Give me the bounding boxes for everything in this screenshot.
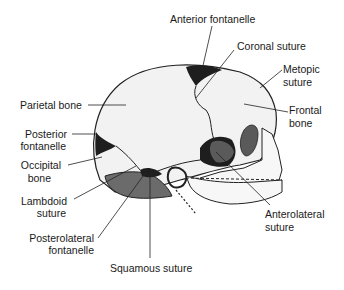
label-occipital-bone-1: Occipital <box>21 159 61 171</box>
label-coronal-suture: Coronal suture <box>237 40 306 52</box>
label-parietal-bone: Parietal bone <box>20 99 82 111</box>
label-anterolateral-suture-2: suture <box>265 221 294 233</box>
label-posterior-fontanelle-2: fontanelle <box>20 140 66 152</box>
label-squamous-suture: Squamous suture <box>110 262 192 274</box>
label-occipital-bone-2: bone <box>28 172 51 184</box>
label-frontal-bone-2: bone <box>289 117 312 129</box>
label-lambdoid-suture-1: Lambdoid <box>21 195 67 207</box>
label-lambdoid-suture-2: suture <box>37 207 66 219</box>
label-anterolateral-suture-1: Anterolateral <box>265 208 325 220</box>
label-anterior-fontanelle: Anterior fontanelle <box>170 13 255 25</box>
ear-dashed-line <box>176 190 196 214</box>
label-frontal-bone-1: Frontal <box>289 104 322 116</box>
label-metopic-suture-1: Metopic <box>283 63 320 75</box>
label-metopic-suture-2: suture <box>283 76 312 88</box>
label-posterior-fontanelle-1: Posterior <box>25 128 67 140</box>
label-posterolateral-fontanelle-2: fontanelle <box>48 244 94 256</box>
label-posterolateral-fontanelle-1: Posterolateral <box>29 232 94 244</box>
